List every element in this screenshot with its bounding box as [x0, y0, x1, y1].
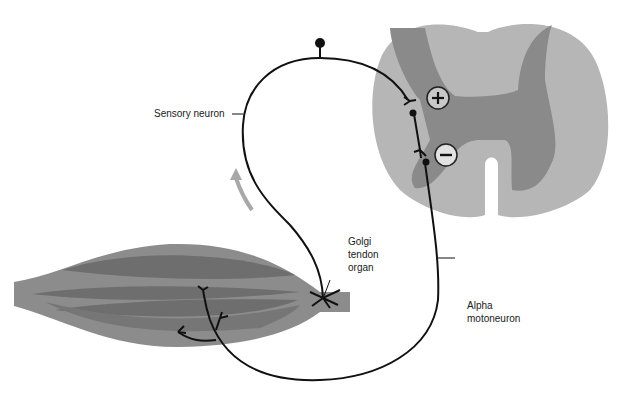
alpha-label-line2: motoneuron	[467, 313, 520, 325]
spinal-cord-cross-section	[372, 24, 608, 217]
reflex-diagram: Sensory neuron Golgi tendon organ Alpha …	[0, 0, 619, 397]
golgi-label-line3: organ	[348, 262, 374, 274]
interneuron-cell-body-icon	[410, 110, 417, 117]
golgi-label-line2: tendon	[348, 249, 379, 261]
golgi-label-line1: Golgi	[348, 236, 371, 248]
arrow-icon	[236, 178, 252, 210]
diagram-graphics	[0, 0, 619, 397]
inhibitory-synapse-icon	[435, 144, 457, 166]
excitatory-synapse-icon	[427, 87, 449, 109]
alpha-label-line1: Alpha	[467, 300, 493, 312]
motoneuron-cell-body-icon	[423, 159, 430, 166]
sensory-cell-body-icon	[315, 38, 325, 48]
arrow-head-icon	[230, 168, 242, 180]
sensory-neuron-label: Sensory neuron	[154, 108, 225, 120]
